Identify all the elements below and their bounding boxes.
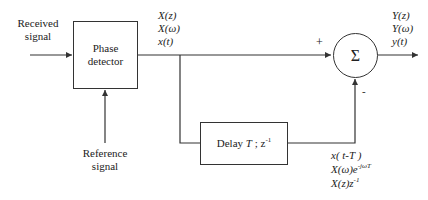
delayed-signal-line [287,79,355,143]
x-z-delayed-label: X(z)z-1 [331,176,371,190]
x-z-label: X(z) [158,9,180,22]
delayed-signal-labels: x( t-T ) X(ω)e-jωT X(z)z-1 [331,148,371,190]
x-t-label: x(t) [158,35,180,48]
delay-z: ; z [252,137,265,149]
phase-detector-line1: Phase [88,42,123,55]
x-omega-delayed-base: X(ω)e [331,163,358,175]
x-t-minus-T-label: x( t-T ) [331,148,371,162]
x-signal-labels: X(z) X(ω) x(t) [158,9,180,48]
plus-sign: + [316,36,323,49]
received-signal-label: Received signal [8,17,68,43]
phase-detector-line2: detector [88,55,123,68]
branch-to-delay-line [180,55,200,143]
delay-exponent: -1 [265,136,271,144]
y-t-label: y(t) [392,35,413,48]
summing-junction: Σ [333,33,378,78]
x-z-delayed-base: X(z)z [331,177,354,189]
sigma-icon: Σ [351,47,360,65]
reference-signal-line2: signal [75,160,135,173]
delay-word: Delay [217,137,246,149]
y-signal-labels: Y(z) Y(ω) y(t) [392,9,413,48]
phase-detector-block: Phase detector [73,21,138,89]
y-z-label: Y(z) [392,9,413,22]
minus-sign: - [362,85,366,98]
delay-label: Delay T ; z-1 [217,137,271,150]
y-omega-label: Y(ω) [392,22,413,35]
received-signal-line2: signal [8,30,68,43]
reference-signal-label: Reference signal [75,147,135,173]
x-z-delayed-exponent: -1 [354,176,360,184]
delay-block: Delay T ; z-1 [200,122,288,165]
x-omega-delayed-exponent: -jωT [358,162,371,170]
x-omega-delayed-label: X(ω)e-jωT [331,162,371,176]
reference-signal-line1: Reference [75,147,135,160]
received-signal-line1: Received [8,17,68,30]
x-omega-label: X(ω) [158,22,180,35]
